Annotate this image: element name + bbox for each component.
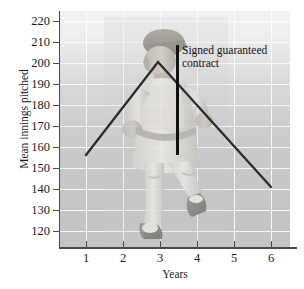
y-tick-label: 220 [6, 15, 50, 28]
y-tick-mark [53, 21, 60, 22]
event-marker-line [176, 45, 179, 155]
x-tick-mark [160, 241, 161, 248]
x-tick-label: 5 [224, 252, 244, 265]
y-tick-mark [53, 105, 60, 106]
x-tick-mark [123, 241, 124, 248]
y-axis-line [59, 11, 60, 249]
y-tick-mark [53, 126, 60, 127]
x-tick-label: 6 [261, 252, 281, 265]
chart-figure: 220 210 200 190 180 170 160 150 140 130 … [0, 0, 304, 289]
y-tick-label: 130 [6, 204, 50, 217]
gridline-vertical [86, 11, 87, 248]
y-tick-mark [53, 168, 60, 169]
y-tick-mark [53, 189, 60, 190]
x-tick-label: 2 [113, 252, 133, 265]
y-tick-mark [53, 42, 60, 43]
x-tick-label: 3 [150, 252, 170, 265]
y-tick-mark [53, 147, 60, 148]
y-tick-mark [53, 84, 60, 85]
x-tick-label: 1 [76, 252, 96, 265]
y-tick-mark [53, 63, 60, 64]
y-tick-label: 120 [6, 225, 50, 238]
x-tick-mark [271, 241, 272, 248]
x-tick-mark [234, 241, 235, 248]
event-annotation-label: Signed guaranteed contract [182, 44, 302, 70]
x-tick-mark [86, 241, 87, 248]
annotation-line-1: Signed guaranteed [182, 44, 267, 56]
y-tick-mark [53, 210, 60, 211]
annotation-line-2: contract [182, 57, 219, 69]
x-axis-title: Years [60, 268, 290, 280]
x-axis-line [59, 247, 297, 249]
x-tick-mark [197, 241, 198, 248]
y-tick-mark [53, 231, 60, 232]
y-axis-title: Mean innings pitched [18, 39, 30, 199]
x-tick-label: 4 [187, 252, 207, 265]
